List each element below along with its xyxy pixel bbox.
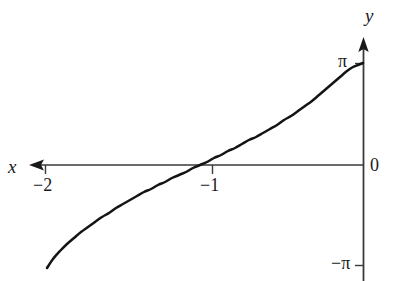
x-axis-label: x [8,157,16,176]
graph-figure: x y 0 π −π −1 −2 [0,0,393,281]
tick-label-negative-pi: −π [331,254,350,272]
plot-canvas [0,0,393,281]
tick-label-origin: 0 [370,156,379,174]
tick-label-negative-two: −2 [33,176,52,194]
tick-label-pi: π [338,52,347,70]
tick-label-negative-one: −1 [200,176,219,194]
x-axis [29,160,364,171]
y-axis-label: y [365,6,373,25]
x-axis-ticks [46,165,213,174]
y-axis [358,37,368,281]
